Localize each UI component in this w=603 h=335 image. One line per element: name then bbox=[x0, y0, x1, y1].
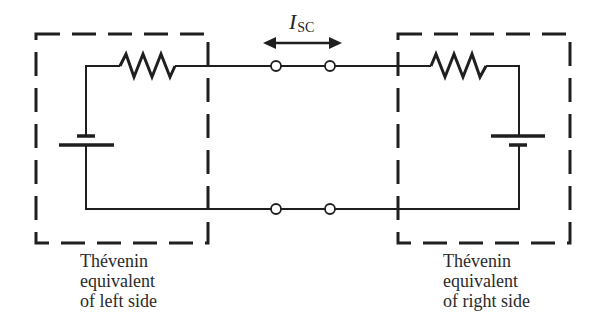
current-symbol: I bbox=[289, 9, 296, 34]
left-caption-line-3: of left side bbox=[80, 291, 157, 311]
left-battery-icon bbox=[59, 136, 114, 145]
terminal-bottom-left-icon bbox=[271, 204, 281, 214]
terminal-top-right-icon bbox=[325, 61, 335, 71]
right-resistor-icon bbox=[431, 54, 486, 77]
circuit-diagram: ISC Thévenin equivalent of left side Thé… bbox=[0, 0, 603, 335]
short-circuit-current-label: ISC bbox=[289, 10, 314, 40]
right-bottom-wire bbox=[335, 145, 519, 209]
terminal-bottom-right-icon bbox=[325, 204, 335, 214]
right-top-wire bbox=[486, 66, 519, 136]
left-resistor-icon bbox=[120, 54, 175, 77]
left-top-wire bbox=[86, 66, 120, 135]
left-thevenin-caption: Thévenin equivalent of left side bbox=[80, 251, 157, 311]
right-caption-line-2: equivalent bbox=[443, 271, 530, 291]
left-caption-line-2: equivalent bbox=[80, 271, 157, 291]
terminal-top-left-icon bbox=[271, 61, 281, 71]
left-bottom-wire bbox=[86, 145, 271, 209]
left-caption-line-1: Thévenin bbox=[80, 251, 157, 271]
current-subscript: SC bbox=[297, 20, 314, 35]
right-caption-line-1: Thévenin bbox=[443, 251, 530, 271]
right-thevenin-caption: Thévenin equivalent of right side bbox=[443, 251, 530, 311]
left-thevenin-box bbox=[36, 34, 208, 73]
right-caption-line-3: of right side bbox=[443, 291, 530, 311]
right-battery-icon bbox=[491, 136, 545, 145]
